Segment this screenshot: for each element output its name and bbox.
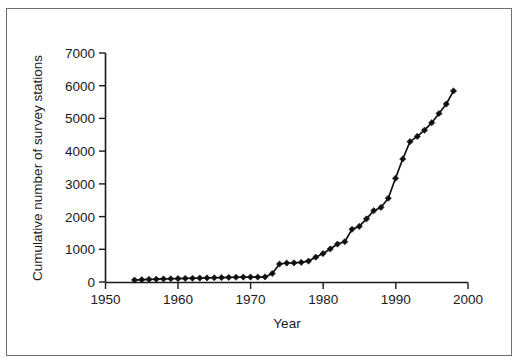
x-axis-tick-labels: 1950 1960 1970 1980 1990 2000 (90, 292, 483, 307)
y-tick-label-1000: 1000 (65, 242, 95, 257)
y-tick-label-3000: 3000 (65, 177, 95, 192)
x-tick-label-1980: 1980 (308, 292, 338, 307)
x-axis-ticks (106, 283, 469, 290)
data-point-marker (218, 274, 224, 280)
data-point-marker (168, 276, 174, 282)
series-line-cumulative-stations (135, 91, 454, 280)
x-tick-label-1950: 1950 (90, 292, 120, 307)
data-point-marker (262, 274, 268, 280)
data-point-marker (313, 254, 319, 260)
y-axis-ticks (99, 53, 106, 282)
data-point-marker (182, 275, 188, 281)
data-point-marker (233, 274, 239, 280)
data-point-marker (240, 274, 246, 280)
x-axis: 1950 1960 1970 1980 1990 2000 Year (90, 283, 483, 332)
x-tick-label-1990: 1990 (381, 292, 411, 307)
y-tick-label-4000: 4000 (65, 144, 95, 159)
data-point-marker (305, 258, 311, 264)
figure-root: 7000 6000 5000 4000 3000 2000 1000 0 Cum… (0, 0, 519, 362)
y-axis: 7000 6000 5000 4000 3000 2000 1000 0 Cum… (30, 46, 106, 290)
y-tick-label-0: 0 (87, 275, 95, 290)
data-point-marker (175, 275, 181, 281)
y-tick-label-6000: 6000 (65, 79, 95, 94)
data-point-marker (211, 275, 217, 281)
data-point-marker (291, 260, 297, 266)
y-tick-label-7000: 7000 (65, 46, 95, 61)
data-point-marker (284, 260, 290, 266)
series-group (131, 88, 456, 283)
data-point-marker (189, 275, 195, 281)
y-tick-label-2000: 2000 (65, 210, 95, 225)
data-point-marker (255, 274, 261, 280)
data-point-marker (160, 276, 166, 282)
x-tick-label-1960: 1960 (163, 292, 193, 307)
x-tick-label-1970: 1970 (236, 292, 266, 307)
data-point-marker (197, 275, 203, 281)
y-tick-label-5000: 5000 (65, 111, 95, 126)
y-axis-tick-labels: 7000 6000 5000 4000 3000 2000 1000 0 (65, 46, 95, 290)
data-point-marker (226, 274, 232, 280)
data-point-marker (153, 276, 159, 282)
series-markers (131, 88, 456, 283)
data-point-marker (392, 175, 398, 181)
data-point-marker (204, 275, 210, 281)
data-point-marker (146, 276, 152, 282)
x-axis-title: Year (273, 316, 301, 331)
line-chart: 7000 6000 5000 4000 3000 2000 1000 0 Cum… (0, 0, 519, 362)
data-point-marker (247, 274, 253, 280)
data-point-marker (400, 156, 406, 162)
x-tick-label-2000: 2000 (453, 292, 483, 307)
data-point-marker (298, 259, 304, 265)
y-axis-title: Cumulative number of survey stations (30, 55, 45, 281)
